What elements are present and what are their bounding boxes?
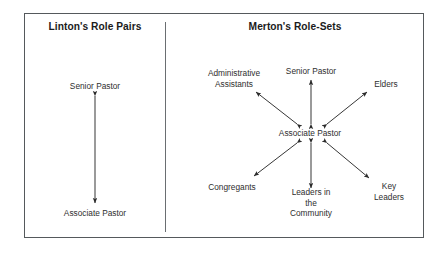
panel-divider [165,22,166,232]
diagram-frame [24,13,424,238]
node-merton-key-leaders: Key Leaders [374,181,404,202]
node-linton-associate-pastor: Associate Pastor [64,208,126,219]
node-merton-associate-pastor: Associate Pastor [279,128,341,139]
node-merton-leaders-in-the-community: Leaders in the Community [290,187,332,219]
panel-title-linton: Linton's Role Pairs [49,21,142,32]
node-merton-administrative-assistants: Administrative Assistants [208,68,260,89]
role-theory-diagram: Linton's Role Pairs Merton's Role-Sets [0,0,446,253]
node-merton-congregants: Congregants [208,182,256,193]
node-merton-senior-pastor: Senior Pastor [286,66,336,77]
node-linton-senior-pastor: Senior Pastor [70,81,120,92]
node-merton-elders: Elders [374,79,398,90]
panel-title-merton: Merton's Role-Sets [249,21,342,32]
